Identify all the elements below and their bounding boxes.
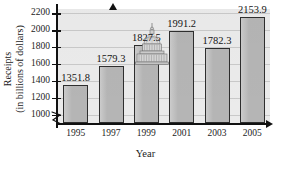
x-axis-tick-label-2005: 2005 [235, 128, 269, 138]
y-axis-tick-label: 1800 [19, 41, 50, 51]
bar-2005 [240, 17, 265, 123]
x-axis-arrow-icon [266, 120, 273, 128]
bar-highlight [64, 86, 72, 122]
bar-value-label-2003: 1782.3 [194, 35, 240, 46]
y-axis-tick-label: 2200 [19, 7, 50, 17]
y-axis-tick-label: 1200 [19, 92, 50, 102]
y-axis-tick-labels-group: 1000120014001600180020002200 [16, 0, 50, 171]
bar-highlight [241, 18, 249, 122]
bar-1995 [63, 85, 88, 123]
bar-value-label-2001: 1991.2 [159, 18, 205, 29]
gridline [58, 115, 270, 116]
bar-chart-figure: Receipts (in billions of dollars) [0, 0, 291, 171]
y-axis-tick [52, 30, 61, 31]
bar-value-label-1995: 1351.8 [53, 72, 99, 83]
gridline [58, 98, 270, 99]
y-axis-title-line-1: Receipts [2, 10, 14, 128]
x-axis-line [56, 123, 268, 125]
bar-highlight [206, 49, 214, 122]
bar-1997 [99, 66, 124, 123]
x-axis-tick-label-1997: 1997 [94, 128, 128, 138]
x-axis-tick-label-2001: 2001 [165, 128, 199, 138]
y-axis-arrow-icon [109, 3, 117, 10]
y-axis-tick-label: 1000 [19, 109, 50, 119]
bar-value-label-2005: 2153.9 [229, 4, 275, 15]
bar-value-label-1997: 1579.3 [88, 53, 134, 64]
bar-value-label-1999: 1827.5 [123, 32, 169, 43]
y-axis-tick-label: 1600 [19, 58, 50, 68]
bar-highlight [100, 67, 108, 122]
y-axis-tick [52, 47, 61, 48]
x-axis-tick-label-1995: 1995 [59, 128, 93, 138]
y-axis-tick-label: 1400 [19, 75, 50, 85]
x-axis-tick-label-1999: 1999 [129, 128, 163, 138]
y-axis-tick [52, 98, 61, 99]
bar-2003 [205, 48, 230, 123]
x-axis-tick-label-2003: 2003 [200, 128, 234, 138]
y-axis-tick [52, 13, 61, 14]
x-axis-title: Year [0, 148, 291, 159]
y-axis-tick [52, 64, 61, 65]
us-capitol-dome-icon [130, 22, 174, 68]
y-axis-tick-label: 2000 [19, 24, 50, 34]
axis-break-icon [50, 110, 64, 126]
